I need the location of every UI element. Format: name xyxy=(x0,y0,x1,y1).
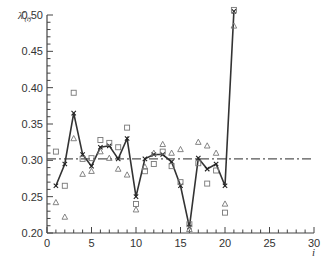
triangle-marker xyxy=(213,150,219,155)
y-tick-label: 0.35 xyxy=(22,118,43,130)
series-x xyxy=(54,9,236,229)
y-tick-label: 0.45 xyxy=(22,45,43,57)
data-series xyxy=(53,7,237,231)
triangle-marker xyxy=(62,214,68,219)
x-tick-label: 0 xyxy=(44,237,50,249)
square-marker xyxy=(62,183,67,188)
square-marker xyxy=(89,156,94,161)
square-marker xyxy=(71,90,76,95)
triangle-marker xyxy=(107,155,113,160)
series-square xyxy=(53,7,236,226)
triangle-marker xyxy=(169,150,175,155)
x-tick-label: 20 xyxy=(219,237,231,249)
x-tick-label: 5 xyxy=(88,237,94,249)
triangle-marker xyxy=(124,172,130,177)
square-marker xyxy=(223,210,228,215)
triangle-marker xyxy=(196,139,202,144)
triangle-marker xyxy=(160,141,166,146)
triangle-marker xyxy=(178,146,184,151)
y-tick-label: 0.30 xyxy=(22,154,43,166)
axes: 0.200.250.300.350.400.450.50051015202530 xyxy=(22,9,321,249)
x-axis-label: i xyxy=(312,246,315,258)
square-marker xyxy=(98,137,103,142)
square-marker xyxy=(134,201,139,206)
x-tick-label: 15 xyxy=(174,237,186,249)
triangle-marker xyxy=(80,171,86,176)
y-tick-label: 0.25 xyxy=(22,191,43,203)
triangle-marker xyxy=(53,199,59,204)
x-tick-label: 10 xyxy=(130,237,142,249)
triangle-marker xyxy=(133,207,139,212)
triangle-marker xyxy=(71,136,77,141)
y-tick-label: 0.40 xyxy=(22,82,43,94)
square-marker xyxy=(205,181,210,186)
series-triangle xyxy=(53,23,237,232)
square-marker xyxy=(151,161,156,166)
square-marker xyxy=(125,125,130,130)
triangle-marker xyxy=(204,143,210,148)
square-marker xyxy=(116,145,121,150)
square-marker xyxy=(53,149,58,154)
triangle-marker xyxy=(222,201,228,206)
triangle-marker xyxy=(89,168,95,173)
x-tick-label: 25 xyxy=(263,237,275,249)
chart: 0.200.250.300.350.400.450.50051015202530… xyxy=(0,0,324,262)
y-tick-label: 0.20 xyxy=(22,227,43,239)
triangle-marker xyxy=(115,166,121,171)
